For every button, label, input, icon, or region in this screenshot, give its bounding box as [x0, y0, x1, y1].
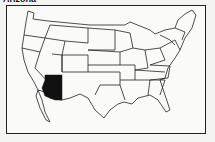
state-arizona [42, 75, 62, 100]
us-map [0, 0, 215, 142]
us-outline [22, 10, 196, 118]
